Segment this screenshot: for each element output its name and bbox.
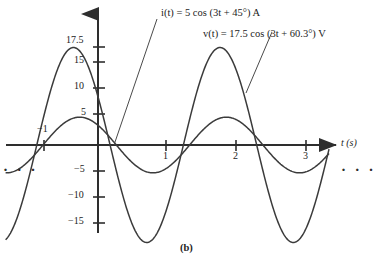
voltage-label-leader-line (246, 32, 272, 93)
x-axis-label: t (s) (341, 138, 357, 148)
voltage-equation-label: v(t) = 17.5 cos (3t + 60.3°) V (203, 29, 326, 40)
y-tick-label-5: 5 (81, 107, 86, 117)
y-tick-label-minus-10: −10 (68, 190, 84, 200)
y-tick-label-minus-5: −5 (74, 164, 85, 174)
x-tick-label-3: 3 (303, 151, 308, 161)
current-label-leader-line (114, 19, 157, 145)
x-tick-label-1: 1 (163, 151, 168, 161)
x-tick-label-2: 2 (233, 151, 238, 161)
figure-container: i(t) = 5 cos (3t + 45°) A v(t) = 17.5 co… (0, 0, 373, 263)
y-tick-label-17.5: 17.5 (66, 35, 84, 45)
current-equation-label: i(t) = 5 cos (3t + 45°) A (161, 8, 260, 19)
y-tick-label-minus-15: −15 (68, 216, 84, 226)
figure-caption: (b) (180, 243, 193, 254)
y-tick-label-15: 15 (74, 55, 84, 65)
x-tick-label-minus-1: −1 (37, 124, 48, 134)
y-tick-label-10: 10 (74, 81, 84, 91)
ellipsis-right: · · · (341, 163, 373, 178)
ellipsis-left: · · · (3, 163, 38, 178)
